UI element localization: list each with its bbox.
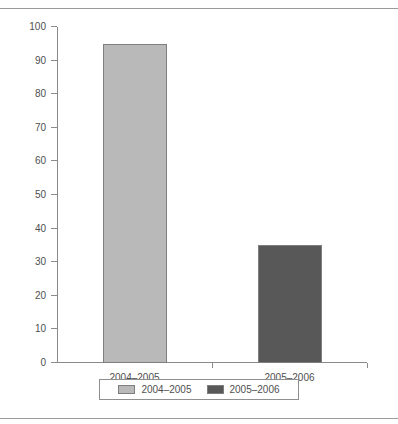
y-axis-tick-label: 80 [35, 87, 46, 100]
bar-2005–2006 [258, 245, 322, 363]
y-axis-tick-label: 50 [35, 188, 46, 201]
y-axis-tick: 20 [51, 295, 57, 296]
y-axis-tick: 50 [51, 194, 57, 195]
cropped-title-text [0, 0, 398, 2]
y-axis-tick: 30 [51, 261, 57, 262]
y-axis-tick: 100 [51, 26, 57, 27]
page-rule-top [0, 8, 398, 9]
y-axis-tick-label: 10 [35, 322, 46, 335]
chart-legend: 2004–20052005–2006 [99, 379, 299, 400]
y-axis-tick: 10 [51, 328, 57, 329]
y-axis-tick: 40 [51, 228, 57, 229]
y-axis-line [57, 27, 58, 363]
bar-2004–2005 [103, 44, 167, 363]
y-axis-tick-label: 0 [40, 356, 46, 369]
y-axis-tick: 90 [51, 60, 57, 61]
y-axis-tick-label: 60 [35, 154, 46, 167]
y-axis-tick: 60 [51, 160, 57, 161]
legend-swatch-icon [118, 385, 135, 394]
y-axis-tick: 70 [51, 127, 57, 128]
legend-item: 2004–2005 [118, 384, 191, 396]
y-axis-tick-label: 70 [35, 121, 46, 134]
y-axis-tick-label: 100 [29, 20, 46, 33]
y-axis-tick-label: 20 [35, 289, 46, 302]
y-axis-tick-label: 30 [35, 255, 46, 268]
x-axis-tick [367, 363, 368, 368]
page-rule-bottom [0, 418, 398, 419]
y-axis-tick: 80 [51, 93, 57, 94]
legend-item: 2005–2006 [207, 384, 280, 396]
y-axis-tick-label: 40 [35, 222, 46, 235]
legend-label: 2004–2005 [141, 384, 191, 396]
bar-chart: 0102030405060708090100 2004–20052005–200… [0, 14, 398, 374]
legend-swatch-icon [207, 385, 224, 394]
y-axis-tick-label: 90 [35, 54, 46, 67]
plot-area: 0102030405060708090100 [57, 27, 367, 363]
legend-label: 2005–2006 [230, 384, 280, 396]
